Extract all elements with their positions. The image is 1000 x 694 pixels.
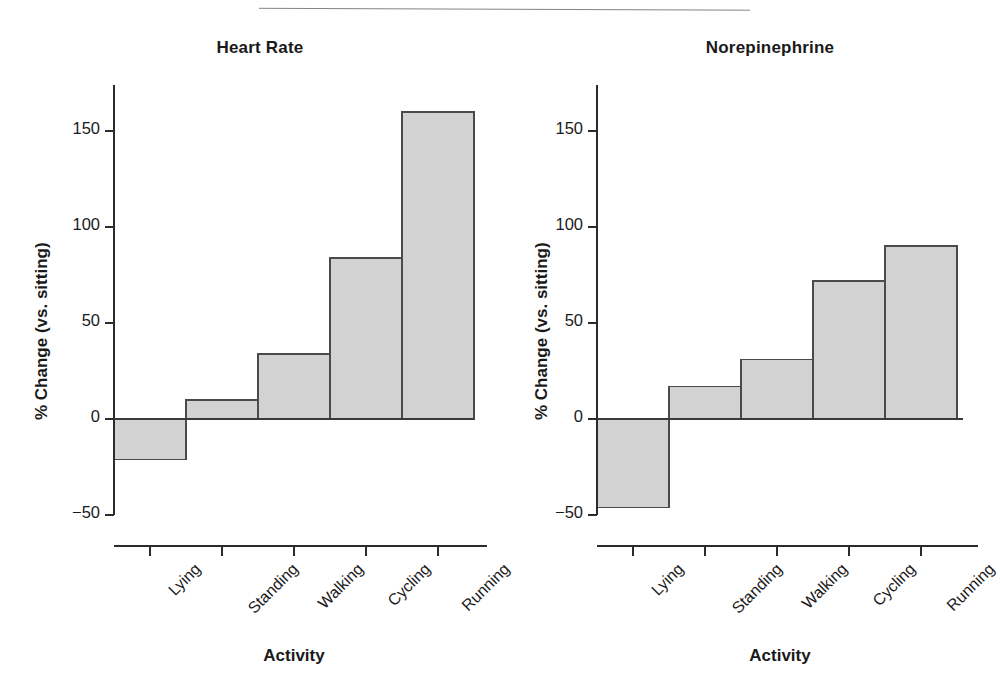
bar-standing <box>186 400 258 419</box>
bar-cycling <box>330 258 402 419</box>
bar-walking <box>741 359 813 419</box>
bar-group-right <box>597 246 957 507</box>
panel-heart-rate: Heart Rate % Change (vs. sitting) Activi… <box>0 0 500 694</box>
x-tick-marks-left <box>150 546 438 556</box>
panel-norepinephrine: Norepinephrine % Change (vs. sitting) Ac… <box>500 0 1000 694</box>
bar-running <box>402 112 474 419</box>
bar-standing <box>669 386 741 419</box>
figure-two-panel-bar-chart: Heart Rate % Change (vs. sitting) Activi… <box>0 0 1000 694</box>
plot-area-right <box>500 0 1000 694</box>
bar-group-left <box>114 112 474 460</box>
y-tick-marks-right <box>588 131 597 515</box>
bar-lying <box>597 419 669 507</box>
bar-cycling <box>813 281 885 419</box>
y-tick-marks-left <box>105 131 114 515</box>
bar-running <box>885 246 957 419</box>
bar-lying <box>114 419 186 459</box>
x-tick-marks-right <box>633 546 921 556</box>
bar-walking <box>258 354 330 419</box>
plot-area-left <box>0 0 500 694</box>
